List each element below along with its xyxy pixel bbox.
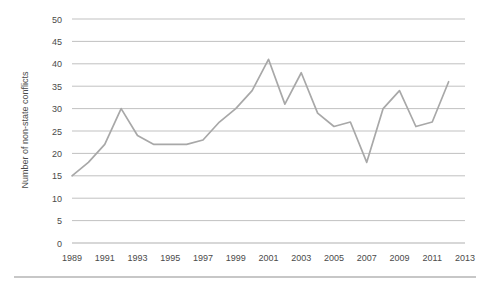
- x-tick-label-1997: 1997: [193, 253, 213, 263]
- x-tick-label-1995: 1995: [160, 253, 180, 263]
- data-series-group: [72, 59, 449, 175]
- x-tick-label-2005: 2005: [324, 253, 344, 263]
- x-tick-label-1989: 1989: [62, 253, 82, 263]
- x-tick-label-2009: 2009: [389, 253, 409, 263]
- y-tick-label-20: 20: [52, 149, 62, 159]
- data-line-non-state-conflicts: [72, 59, 449, 175]
- y-axis-title-group: Number of non-state conflicts: [20, 71, 30, 189]
- x-tick-label-2007: 2007: [357, 253, 377, 263]
- xtick-labels-group: 1989199119931995199719992001200320052007…: [62, 253, 475, 263]
- ytick-labels-group: 05101520253035404550: [52, 15, 62, 249]
- x-tick-label-2001: 2001: [258, 253, 278, 263]
- x-tick-label-1993: 1993: [127, 253, 147, 263]
- y-tick-label-0: 0: [57, 239, 62, 249]
- y-tick-label-25: 25: [52, 127, 62, 137]
- x-tick-label-1991: 1991: [95, 253, 115, 263]
- y-tick-label-15: 15: [52, 171, 62, 181]
- y-tick-label-35: 35: [52, 82, 62, 92]
- y-tick-label-50: 50: [52, 15, 62, 25]
- y-axis-title: Number of non-state conflicts: [20, 71, 30, 189]
- line-chart: 05101520253035404550 1989199119931995199…: [0, 0, 490, 291]
- gridlines-group: [72, 19, 465, 243]
- y-tick-label-30: 30: [52, 104, 62, 114]
- x-tick-label-2011: 2011: [423, 253, 442, 263]
- y-tick-label-40: 40: [52, 59, 62, 69]
- y-tick-label-5: 5: [57, 216, 62, 226]
- x-tick-label-1999: 1999: [226, 253, 246, 263]
- chart-figure: 05101520253035404550 1989199119931995199…: [0, 0, 490, 291]
- y-tick-label-45: 45: [52, 37, 62, 47]
- x-tick-label-2003: 2003: [291, 253, 311, 263]
- y-tick-label-10: 10: [52, 194, 62, 204]
- x-tick-label-2013: 2013: [455, 253, 475, 263]
